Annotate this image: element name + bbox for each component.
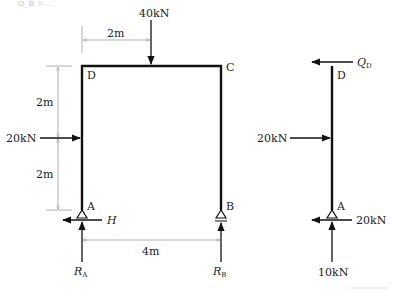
label-shear-qd: QD [357, 57, 372, 70]
label-node-b: B [226, 201, 234, 212]
label-reaction-rb: RB [213, 266, 226, 279]
frame-members [82, 66, 221, 210]
header-fragment: Q_B = ... [18, 0, 54, 8]
fbd-support [327, 210, 337, 218]
support-a [77, 210, 87, 218]
label-fbd-node-d: D [337, 70, 346, 81]
label-fbd-horizontal-reaction: 20kN [356, 215, 386, 226]
label-dim-lower: 2m [36, 169, 53, 180]
portal-frame [82, 66, 221, 210]
label-dim-top: 2m [107, 28, 124, 39]
label-node-d: D [87, 70, 96, 81]
label-load-40kn: 40kN [139, 8, 169, 19]
label-dim-span: 4m [142, 246, 159, 257]
label-load-20kn: 20kN [6, 133, 36, 144]
label-fbd-load: 20kN [257, 133, 287, 144]
label-dim-upper: 2m [36, 97, 53, 108]
label-node-a: A [87, 201, 95, 212]
label-reaction-ra: RA [74, 266, 87, 279]
label-fbd-node-a: A [337, 201, 345, 212]
label-fbd-vertical-reaction: 10kN [318, 267, 348, 278]
diagram-canvas [0, 0, 393, 291]
label-reaction-h: H [107, 215, 117, 226]
label-node-c: C [226, 62, 234, 73]
